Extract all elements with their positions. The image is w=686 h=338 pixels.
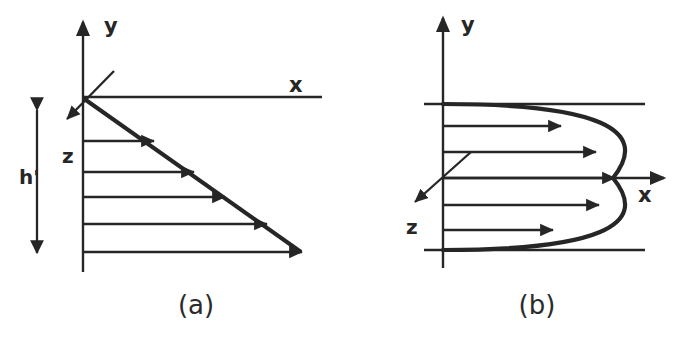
figure-canvas: h' y x z xyxy=(0,0,686,338)
dimension-label-h-prime: h' xyxy=(19,165,39,189)
x-axis-label: x xyxy=(289,73,303,97)
velocity-vectors-b xyxy=(443,126,615,230)
x-axis-label: x xyxy=(638,183,652,207)
z-axis-b: z xyxy=(406,152,471,239)
y-axis-label: y xyxy=(104,14,118,38)
dimension-h-prime: h' xyxy=(19,110,39,253)
panel-caption-a: (a) xyxy=(178,290,214,320)
x-axis-a: x xyxy=(83,73,322,97)
x-axis-b: x xyxy=(443,178,664,207)
z-axis-label: z xyxy=(62,144,74,168)
velocity-vectors-a xyxy=(83,141,302,252)
y-axis-a: y xyxy=(83,14,118,272)
velocity-profile-figure: h' y x z xyxy=(0,0,686,338)
panel-caption-b: (b) xyxy=(519,290,556,320)
z-axis-a: z xyxy=(62,71,114,168)
z-axis-line xyxy=(67,71,114,119)
panel-b: y x z (b) xyxy=(406,13,664,320)
z-axis-label: z xyxy=(406,215,418,239)
panel-a: h' y x z xyxy=(19,14,322,320)
linear-profile-envelope xyxy=(83,98,301,252)
y-axis-label: y xyxy=(461,13,475,37)
